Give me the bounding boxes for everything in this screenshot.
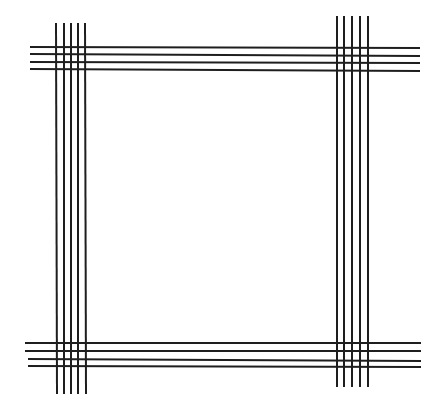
- bottom-horizontal-bundle: [25, 343, 421, 367]
- top-horizontal-bundle: [30, 47, 420, 71]
- top-horizontal-line-1: [30, 47, 420, 48]
- top-horizontal-line-3: [30, 62, 420, 63]
- top-horizontal-line-4: [30, 69, 420, 71]
- plaid-frame-diagram: [0, 0, 444, 412]
- left-vertical-bundle: [56, 23, 86, 394]
- left-vertical-line-5: [85, 23, 86, 394]
- bottom-horizontal-line-3: [28, 359, 421, 361]
- bottom-horizontal-line-4: [28, 366, 421, 367]
- top-horizontal-line-2: [30, 54, 420, 56]
- left-vertical-line-1: [56, 23, 57, 394]
